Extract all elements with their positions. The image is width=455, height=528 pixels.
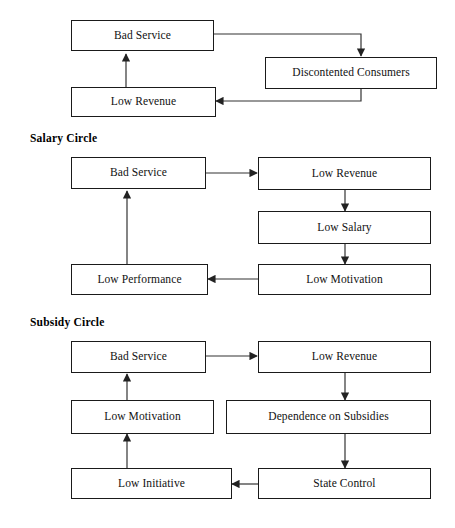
node-bad-service-subsidy-circle[interactable]: Bad Service xyxy=(71,341,206,373)
node-low-motivation-salary-circle[interactable]: Low Motivation xyxy=(258,264,431,295)
node-label: State Control xyxy=(313,478,375,490)
node-label: Bad Service xyxy=(110,167,167,179)
edge-d1-discontented-consumers-to-low-revenue xyxy=(216,89,361,101)
node-label: Low Initiative xyxy=(118,478,185,490)
node-state-control[interactable]: State Control xyxy=(258,468,431,499)
node-label: Low Salary xyxy=(317,222,371,234)
node-discontented-consumers[interactable]: Discontented Consumers xyxy=(265,57,437,89)
node-bad-service-salary-circle[interactable]: Bad Service xyxy=(71,157,206,189)
node-low-motivation-subsidy-circle[interactable]: Low Motivation xyxy=(71,400,214,434)
section-title-salary-circle: Salary Circle xyxy=(30,132,97,144)
section-title-subsidy-circle: Subsidy Circle xyxy=(30,316,104,328)
node-label: Low Performance xyxy=(97,274,181,286)
node-low-revenue-consumer-circle[interactable]: Low Revenue xyxy=(71,87,216,117)
node-label: Discontented Consumers xyxy=(292,67,410,79)
node-low-salary[interactable]: Low Salary xyxy=(258,211,431,244)
node-label: Dependence on Subsidies xyxy=(268,411,388,423)
node-label: Low Motivation xyxy=(104,411,180,423)
node-label: Bad Service xyxy=(114,30,171,42)
node-low-revenue-subsidy-circle[interactable]: Low Revenue xyxy=(258,341,431,373)
node-low-performance[interactable]: Low Performance xyxy=(71,264,208,295)
node-low-revenue-salary-circle[interactable]: Low Revenue xyxy=(258,157,431,190)
node-label: Low Revenue xyxy=(111,96,176,108)
node-dependence-on-subsidies[interactable]: Dependence on Subsidies xyxy=(226,400,431,434)
figure-canvas: Bad Service Discontented Consumers Low R… xyxy=(0,0,455,528)
edge-d1-bad-service-to-discontented-consumers xyxy=(214,34,361,56)
node-label: Bad Service xyxy=(110,351,167,363)
node-bad-service-consumer-circle[interactable]: Bad Service xyxy=(71,20,214,51)
node-low-initiative[interactable]: Low Initiative xyxy=(71,468,232,499)
node-label: Low Revenue xyxy=(312,168,377,180)
node-label: Low Motivation xyxy=(306,274,382,286)
node-label: Low Revenue xyxy=(312,351,377,363)
